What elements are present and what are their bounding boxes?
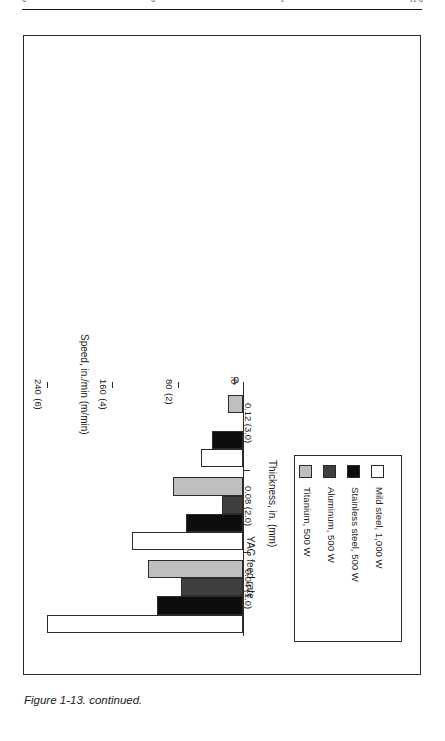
- legend-swatch: [371, 465, 384, 478]
- speed-axis-tick: [47, 382, 48, 388]
- thickness-axis-tick-label: 0.08 (2.0): [243, 486, 254, 526]
- speed-axis-tick-label: 160 (4): [98, 379, 109, 410]
- speed-axis-tick-label: 0: [229, 379, 240, 384]
- bar-group: [48, 388, 243, 471]
- legend-entry: Titanium, 500 W: [293, 465, 317, 615]
- figure-box: d. Mild steel, 1,000 WStainless steel, 5…: [23, 35, 421, 675]
- page-running-header: 0.11 1 0 0: [0, 0, 445, 13]
- speed-axis-tick-label: 240 (6): [33, 379, 44, 410]
- speed-axis-tick: [243, 382, 244, 388]
- header-rule: [22, 9, 422, 10]
- bar: [148, 560, 243, 578]
- legend-swatch: [299, 465, 312, 478]
- thickness-axis-tick: [244, 470, 250, 471]
- legend-label: Aluminum, 500 W: [326, 487, 337, 563]
- legend-entries: Mild steel, 1,000 WStainless steel, 500 …: [295, 456, 401, 641]
- legend-swatch: [323, 465, 336, 478]
- figure-rotated-content: d. Mild steel, 1,000 WStainless steel, 5…: [24, 36, 420, 674]
- legend-swatch: [347, 465, 360, 478]
- bar-group: [48, 553, 243, 636]
- header-fragment-4: 0: [22, 0, 26, 4]
- chart-plot-area: YAG feed rate Speed, in./min (m/min) Thi…: [44, 352, 280, 652]
- bar: [157, 596, 243, 614]
- bar: [47, 615, 243, 633]
- figure-caption: Figure 1-13. continued.: [24, 694, 142, 706]
- bar: [201, 449, 243, 467]
- bar: [212, 431, 243, 449]
- header-fragment-2: 1: [280, 0, 284, 4]
- bar: [186, 514, 243, 532]
- header-fragment-3: 0: [151, 0, 155, 4]
- legend-entry: Mild steel, 1,000 W: [365, 465, 389, 615]
- speed-axis-title: Speed, in./min (m/min): [79, 334, 90, 435]
- legend-label: Stainless steel, 500 W: [350, 487, 361, 582]
- thickness-axis-tick: [244, 552, 250, 553]
- running-header-text: 0.11 1 0 0: [0, 0, 445, 4]
- chart-axes-box: [48, 388, 244, 636]
- legend-label: Mild steel, 1,000 W: [374, 487, 385, 569]
- thickness-axis-title: Thickness, in. (mm): [267, 460, 278, 547]
- thickness-axis-tick-label: 0.04 (1.0): [243, 569, 254, 609]
- bar: [222, 496, 243, 514]
- header-fragment-1: 0.11: [409, 0, 423, 4]
- thickness-axis-tick-label: 0.12 (3.0): [243, 403, 254, 443]
- bar-group: [48, 471, 243, 554]
- speed-axis-tick: [178, 382, 179, 388]
- speed-axis-tick-label: 80 (2): [164, 379, 175, 405]
- speed-axis-tick: [112, 382, 113, 388]
- bar: [132, 532, 243, 550]
- legend-entry: Stainless steel, 500 W: [341, 465, 365, 615]
- legend-label: Titanium, 500 W: [302, 487, 313, 557]
- bar: [181, 578, 243, 596]
- bar: [173, 477, 243, 495]
- legend-entry: Aluminum, 500 W: [317, 465, 341, 615]
- bar: [228, 395, 243, 413]
- chart-legend: Mild steel, 1,000 WStainless steel, 500 …: [294, 455, 402, 642]
